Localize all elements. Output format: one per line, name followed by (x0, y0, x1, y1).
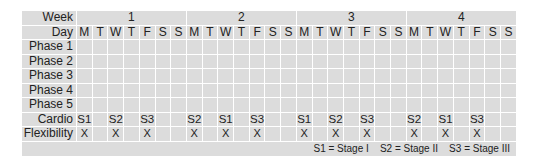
cardio-cell (124, 113, 139, 127)
day-header: T (422, 26, 437, 40)
day-header: M (77, 26, 92, 40)
phase-cell (375, 69, 390, 83)
cardio-cell (281, 113, 296, 127)
day-header: W (438, 26, 453, 40)
phase-cell (344, 98, 359, 112)
phase-cell (422, 98, 437, 112)
flexibility-cell (171, 127, 186, 141)
day-header: T (313, 26, 328, 40)
phase-cell (297, 69, 312, 83)
phase-cell (470, 40, 485, 54)
phase-cell (77, 40, 92, 54)
cardio-cell: S2 (407, 113, 422, 127)
phase-cell (250, 84, 265, 98)
phase-row: Phase 3 (22, 69, 516, 83)
phase-cell (438, 55, 453, 69)
phase-cell (140, 55, 155, 69)
phase-cell (77, 69, 92, 83)
phase-cell (344, 40, 359, 54)
flexibility-cell (203, 127, 218, 141)
flexibility-cell: X (140, 127, 155, 141)
day-header: W (328, 26, 343, 40)
phase-cell (407, 84, 422, 98)
phase-cell (297, 55, 312, 69)
phase-cell (265, 55, 280, 69)
phase-cell (218, 84, 233, 98)
week-header: 3 (297, 11, 406, 25)
phase-cell (234, 98, 249, 112)
cardio-cell (93, 113, 108, 127)
cardio-cell: S2 (187, 113, 202, 127)
cardio-row: CardioS1S2S3S2S1S3S1S2S3S2S1S3 (22, 113, 516, 127)
cardio-cell (454, 113, 469, 127)
flexibility-cell (375, 127, 390, 141)
phase-cell (203, 84, 218, 98)
flexibility-cell (281, 127, 296, 141)
phase-cell (407, 98, 422, 112)
day-header: S (156, 26, 171, 40)
phase-cell (313, 55, 328, 69)
phase-cell (470, 84, 485, 98)
phase-cell (156, 69, 171, 83)
phase-cell (234, 40, 249, 54)
cardio-cell (234, 113, 249, 127)
phase-cell (93, 40, 108, 54)
week-row: Week1234 (22, 11, 516, 25)
phase-cell (328, 55, 343, 69)
flexibility-cell (454, 127, 469, 141)
cardio-cell (375, 113, 390, 127)
phase-cell (203, 69, 218, 83)
phase-cell (297, 84, 312, 98)
phase-cell (438, 98, 453, 112)
day-header: T (93, 26, 108, 40)
flexibility-cell: X (328, 127, 343, 141)
cardio-cell: S3 (360, 113, 375, 127)
phase-cell (485, 69, 500, 83)
phase-cell (313, 69, 328, 83)
phase-cell (485, 40, 500, 54)
phase-cell (391, 84, 406, 98)
flexibility-cell (124, 127, 139, 141)
phase-cell (501, 98, 516, 112)
cardio-cell: S1 (77, 113, 92, 127)
phase-cell (407, 55, 422, 69)
day-header: S (281, 26, 296, 40)
day-header: S (171, 26, 186, 40)
phase-cell (265, 69, 280, 83)
phase-cell (187, 98, 202, 112)
phase-cell (281, 98, 296, 112)
stage-legend: S1 = Stage I S2 = Stage II S3 = Stage II… (22, 142, 516, 156)
phase-cell (203, 98, 218, 112)
day-header: S (501, 26, 516, 40)
flexibility-cell (501, 127, 516, 141)
phase-cell (438, 40, 453, 54)
phase-cell (375, 55, 390, 69)
phase-cell (391, 40, 406, 54)
phase-cell (391, 55, 406, 69)
phase-cell (438, 84, 453, 98)
day-header: F (470, 26, 485, 40)
phase-cell (218, 98, 233, 112)
phase-cell (203, 55, 218, 69)
cardio-cell: S2 (108, 113, 123, 127)
phase-label: Phase 3 (22, 69, 76, 83)
phase-cell (108, 69, 123, 83)
cardio-label: Cardio (22, 113, 76, 127)
day-header: M (407, 26, 422, 40)
cardio-cell: S1 (297, 113, 312, 127)
phase-row: Phase 5 (22, 98, 516, 112)
phase-cell (454, 55, 469, 69)
phase-cell (422, 84, 437, 98)
phase-cell (218, 69, 233, 83)
phase-cell (93, 69, 108, 83)
flexibility-cell: X (187, 127, 202, 141)
phase-cell (77, 98, 92, 112)
flexibility-cell (485, 127, 500, 141)
day-header: M (187, 26, 202, 40)
phase-cell (187, 69, 202, 83)
phase-cell (265, 84, 280, 98)
cardio-cell (171, 113, 186, 127)
phase-row: Phase 1 (22, 40, 516, 54)
phase-cell (360, 84, 375, 98)
phase-cell (108, 98, 123, 112)
